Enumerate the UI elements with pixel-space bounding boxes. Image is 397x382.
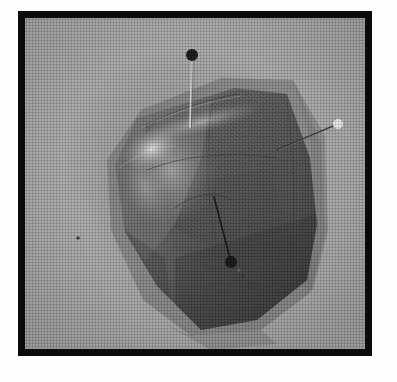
plate-frame bbox=[18, 11, 372, 356]
pin-lower-head bbox=[225, 256, 237, 268]
speck-lower-blur bbox=[246, 282, 260, 290]
speck-left bbox=[76, 236, 80, 240]
photograph-field bbox=[25, 18, 365, 349]
pin-lower-head-gloss bbox=[237, 268, 240, 271]
specimen-svg bbox=[25, 18, 365, 349]
speck-lower bbox=[241, 274, 245, 278]
pin-right-head-shade bbox=[344, 131, 350, 137]
pin-right-head bbox=[333, 119, 343, 129]
figure-root bbox=[0, 0, 397, 382]
pin-top-head-gloss bbox=[195, 58, 199, 62]
